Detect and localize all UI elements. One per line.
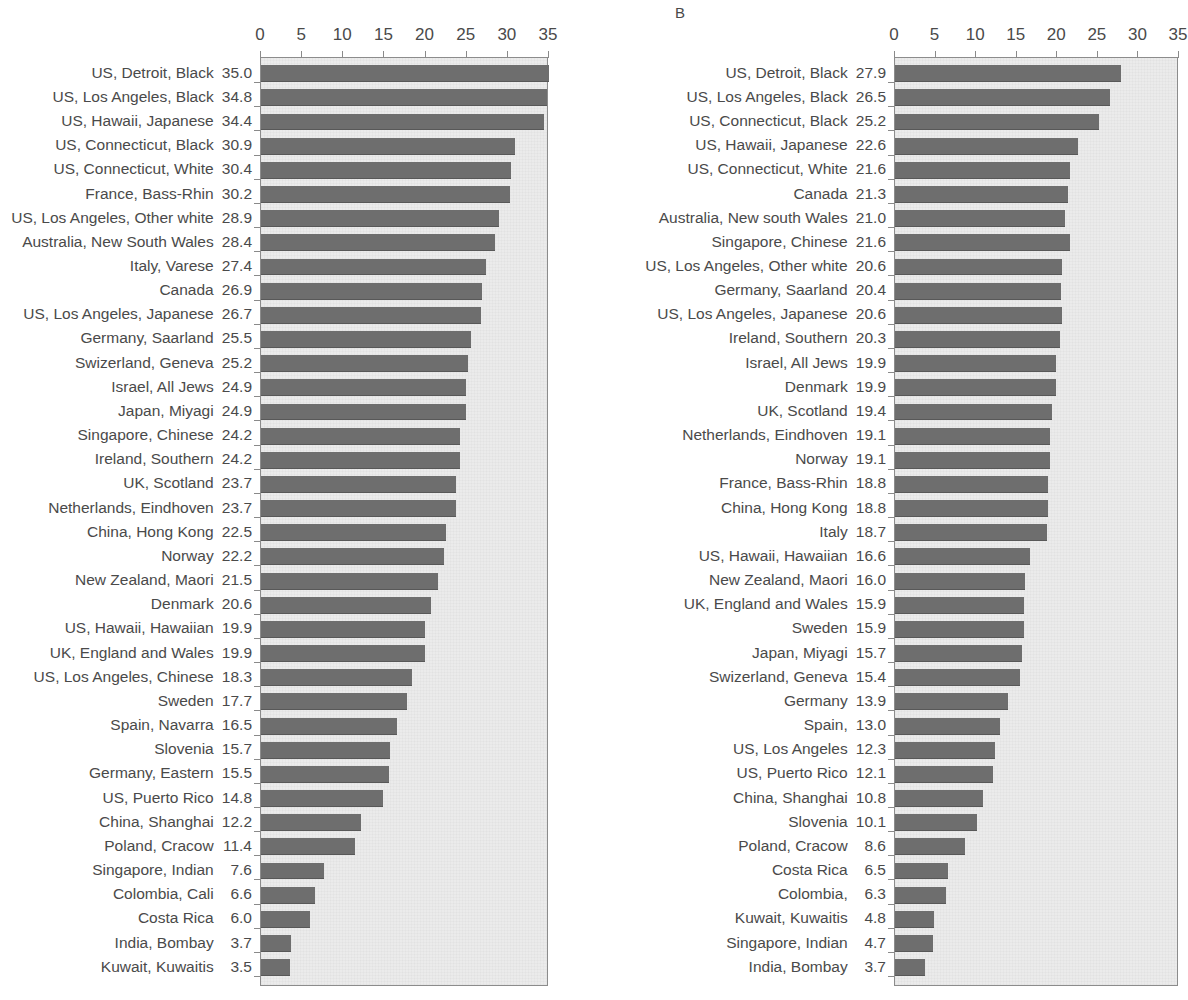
row-tick xyxy=(254,130,260,131)
row-tick xyxy=(888,106,894,107)
row-tick xyxy=(254,976,260,977)
row-tick xyxy=(254,807,260,808)
category-value: 12.2 xyxy=(218,814,252,830)
category-name: Sweden xyxy=(792,619,852,636)
category-name: Norway xyxy=(795,450,852,467)
category-label: Ireland, Southern 24.2 xyxy=(95,451,252,467)
bar xyxy=(895,307,1062,324)
bar xyxy=(895,573,1025,590)
row-tick xyxy=(254,106,260,107)
bar xyxy=(895,766,993,783)
row-tick xyxy=(888,565,894,566)
category-value: 23.7 xyxy=(218,500,252,516)
category-name: Israel, All Jews xyxy=(745,354,852,371)
category-label: Japan, Miyagi 24.9 xyxy=(118,403,252,419)
category-name: India, Bombay xyxy=(115,934,218,951)
row-tick xyxy=(254,735,260,736)
category-value: 25.2 xyxy=(852,113,886,129)
bar xyxy=(261,621,425,638)
row-tick xyxy=(254,614,260,615)
axis-tick-label: 35 xyxy=(539,25,558,45)
row-tick xyxy=(888,275,894,276)
category-name: Spain, xyxy=(804,716,852,733)
category-value: 19.1 xyxy=(852,427,886,443)
category-value: 4.8 xyxy=(852,910,886,926)
bar xyxy=(261,935,291,952)
category-name: US, Hawaii, Hawaiian xyxy=(65,619,218,636)
row-tick xyxy=(888,590,894,591)
row-tick xyxy=(888,493,894,494)
category-name: Italy xyxy=(819,523,852,540)
category-name: US, Detroit, Black xyxy=(725,64,852,81)
bar xyxy=(261,379,466,396)
category-label: Japan, Miyagi 15.7 xyxy=(752,645,886,661)
row-tick xyxy=(888,130,894,131)
category-label: US, Puerto Rico 12.1 xyxy=(737,765,886,781)
row-tick xyxy=(888,855,894,856)
category-label: Kuwait, Kuwaitis 3.5 xyxy=(101,959,252,975)
row-tick xyxy=(254,517,260,518)
category-label: Italy, Varese 27.4 xyxy=(130,258,252,274)
chart-panel-a: 05101520253035 US, Detroit, Black 35.0US… xyxy=(0,0,600,1000)
category-value: 21.6 xyxy=(852,234,886,250)
bar xyxy=(261,428,460,445)
category-label: US, Detroit, Black 35.0 xyxy=(91,65,252,81)
category-label: US, Connecticut, White 21.6 xyxy=(687,161,886,177)
category-label: Germany 13.9 xyxy=(784,693,886,709)
axis-tick-label: 5 xyxy=(296,25,305,45)
category-label: Kuwait, Kuwaitis 4.8 xyxy=(735,910,886,926)
bar xyxy=(261,766,389,783)
category-value: 3.7 xyxy=(218,935,252,951)
category-name: Canada xyxy=(793,185,852,202)
row-tick xyxy=(888,759,894,760)
category-label: UK, Scotland 19.4 xyxy=(757,403,886,419)
category-name: Colombia, xyxy=(778,885,852,902)
category-label: Costa Rica 6.5 xyxy=(772,862,886,878)
bar xyxy=(895,428,1050,445)
row-tick xyxy=(254,855,260,856)
category-name: Italy, Varese xyxy=(130,257,218,274)
bar xyxy=(895,210,1065,227)
category-value: 10.1 xyxy=(852,814,886,830)
category-value: 7.6 xyxy=(218,862,252,878)
bar xyxy=(895,718,1000,735)
bar xyxy=(261,959,290,976)
category-name: US, Connecticut, White xyxy=(53,160,218,177)
row-tick xyxy=(254,686,260,687)
category-name: UK, Scotland xyxy=(123,474,218,491)
bar xyxy=(895,379,1056,396)
category-label: Germany, Eastern 15.5 xyxy=(89,765,252,781)
bar xyxy=(895,790,983,807)
bar xyxy=(261,911,310,928)
bar xyxy=(261,573,438,590)
category-value: 20.6 xyxy=(218,596,252,612)
bar xyxy=(895,500,1048,517)
category-label: France, Bass-Rhin 30.2 xyxy=(85,186,252,202)
category-label: Sweden 15.9 xyxy=(792,620,886,636)
bar xyxy=(895,89,1110,106)
row-tick xyxy=(888,831,894,832)
category-value: 19.9 xyxy=(852,355,886,371)
bar xyxy=(261,162,511,179)
category-value: 19.9 xyxy=(852,379,886,395)
category-label: UK, Scotland 23.7 xyxy=(123,475,252,491)
axis-tick-label: 25 xyxy=(1087,25,1106,45)
category-value: 16.6 xyxy=(852,548,886,564)
category-value: 35.0 xyxy=(218,65,252,81)
category-value: 13.0 xyxy=(852,717,886,733)
category-name: Australia, New south Wales xyxy=(659,209,852,226)
axis-tick-mark xyxy=(1178,51,1179,58)
row-tick xyxy=(888,904,894,905)
category-label: China, Hong Kong 18.8 xyxy=(721,500,886,516)
row-tick xyxy=(888,324,894,325)
category-label: Slovenia 15.7 xyxy=(154,741,252,757)
category-label: US, Los Angeles, Japanese 26.7 xyxy=(23,306,252,322)
category-value: 6.3 xyxy=(852,886,886,902)
category-name: New Zealand, Maori xyxy=(75,571,218,588)
category-value: 22.5 xyxy=(218,524,252,540)
axis-tick-label: 20 xyxy=(415,25,434,45)
axis-tick-label: 30 xyxy=(1128,25,1147,45)
row-tick xyxy=(888,807,894,808)
category-value: 22.6 xyxy=(852,137,886,153)
category-name: Denmark xyxy=(785,378,852,395)
